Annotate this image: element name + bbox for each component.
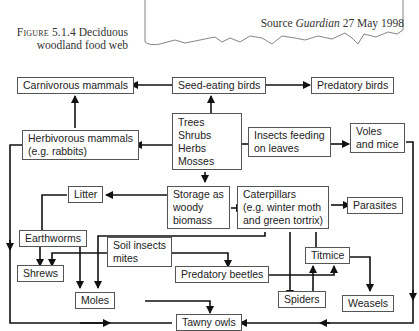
- node-weasels: Weasels: [342, 295, 394, 312]
- node-voles-and-mice: Volesand mice: [350, 123, 405, 153]
- node-shrews: Shrews: [17, 265, 64, 282]
- node-litter: Litter: [68, 186, 103, 203]
- node-insects-feeding-on-leaves: Insects feedingon leaves: [248, 127, 331, 157]
- source-citation: Source Guardian 27 May 1998: [230, 17, 404, 29]
- node-caterpillars: Caterpillars(e.g. winter mothand green t…: [237, 186, 329, 229]
- node-parasites: Parasites: [347, 197, 403, 214]
- node-carnivorous-mammals: Carnivorous mammals: [17, 77, 134, 94]
- source-date: 27 May 1998: [340, 17, 404, 29]
- node-moles: Moles: [75, 292, 115, 309]
- node-titmice: Titmice: [305, 247, 350, 264]
- food-web-figure: Figure 5.1.4 Deciduous woodland food web: [0, 0, 419, 331]
- node-earthworms: Earthworms: [19, 230, 87, 247]
- source-publication: Guardian: [295, 17, 339, 29]
- node-producers: TreesShrubsHerbsMosses: [172, 113, 242, 170]
- source-prefix: Source: [261, 17, 296, 29]
- node-spiders: Spiders: [278, 291, 326, 308]
- node-tawny-owls: Tawny owls: [176, 314, 242, 331]
- node-herbivorous-mammals: Herbivorous mammals(e.g. rabbits): [22, 130, 139, 160]
- node-predatory-birds: Predatory birds: [311, 77, 394, 94]
- node-predatory-beetles: Predatory beetles: [175, 266, 269, 283]
- node-seed-eating-birds: Seed-eating birds: [172, 77, 266, 94]
- node-storage-woody-biomass: Storage aswoodybiomass: [167, 186, 230, 229]
- node-soil-insects-mites: Soil insectsmites: [107, 237, 172, 267]
